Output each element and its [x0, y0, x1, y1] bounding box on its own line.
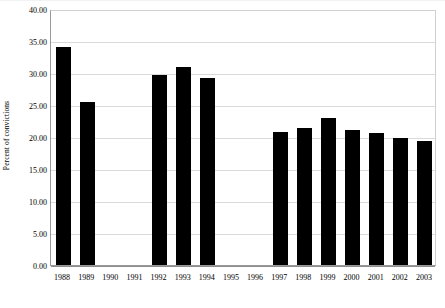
x-tick-label-1996: 1996 — [243, 273, 267, 282]
x-axis-tick-labels: 1988198919901991199219931994199519961997… — [50, 269, 436, 291]
x-tick-label-1990: 1990 — [98, 273, 122, 282]
y-tick-label: 0.00 — [33, 262, 47, 271]
bar-1997 — [273, 132, 288, 265]
x-tick-label-1998: 1998 — [291, 273, 315, 282]
x-tick-label-1999: 1999 — [315, 273, 339, 282]
bar-1998 — [297, 128, 312, 265]
y-tick-label: 20.00 — [29, 134, 47, 143]
bar-2002 — [393, 138, 408, 265]
y-axis-tick-labels: 0.005.0010.0015.0020.0025.0030.0035.0040… — [14, 0, 50, 308]
bar-2003 — [417, 141, 432, 265]
y-tick-label: 30.00 — [29, 70, 47, 79]
y-tick-label: 40.00 — [29, 6, 47, 15]
bar-2001 — [369, 133, 384, 265]
bar-1988 — [56, 47, 71, 265]
gridline-0 — [51, 266, 435, 267]
plot-area — [50, 10, 436, 266]
x-tick-label-2000: 2000 — [340, 273, 364, 282]
y-tick-label: 25.00 — [29, 102, 47, 111]
bar-1993 — [176, 67, 191, 265]
bar-1999 — [321, 118, 336, 265]
x-tick-label-1989: 1989 — [74, 273, 98, 282]
x-tick-label-1995: 1995 — [219, 273, 243, 282]
x-tick-label-1992: 1992 — [147, 273, 171, 282]
y-tick-label: 10.00 — [29, 198, 47, 207]
y-tick-label: 35.00 — [29, 38, 47, 47]
x-tick-label-1997: 1997 — [267, 273, 291, 282]
x-tick-label-1993: 1993 — [171, 273, 195, 282]
scan-edge-artifact — [0, 0, 445, 1]
x-tick-label-1991: 1991 — [122, 273, 146, 282]
x-tick-label-2001: 2001 — [364, 273, 388, 282]
bars-layer — [51, 11, 435, 265]
y-tick-label: 5.00 — [33, 230, 47, 239]
x-tick-label-1994: 1994 — [195, 273, 219, 282]
y-axis-title: Percent of convictions — [0, 0, 14, 270]
bar-1994 — [200, 78, 215, 265]
x-tick-label-1988: 1988 — [50, 273, 74, 282]
x-tick-label-2003: 2003 — [412, 273, 436, 282]
x-tick-label-2002: 2002 — [388, 273, 412, 282]
y-tick-label: 15.00 — [29, 166, 47, 175]
bar-1989 — [80, 102, 95, 265]
bar-chart: Percent of convictions 0.005.0010.0015.0… — [0, 0, 445, 308]
bar-1992 — [152, 75, 167, 265]
y-axis-title-text: Percent of convictions — [3, 100, 12, 169]
bar-2000 — [345, 130, 360, 265]
